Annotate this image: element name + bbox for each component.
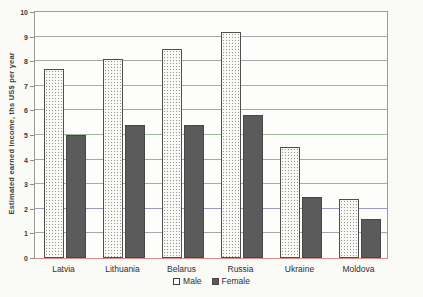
legend-label-male: Male (183, 276, 201, 286)
y-tick-label-7: 7 (6, 82, 28, 91)
y-tick-label-9: 9 (6, 33, 28, 42)
bar-female-ukraine (302, 197, 322, 259)
bar-male-latvia (44, 69, 64, 258)
bar-male-belarus (162, 49, 182, 258)
x-axis-label-moldova: Moldova (329, 264, 388, 274)
bar-male-lithuania (103, 59, 123, 258)
gridline-6 (35, 109, 387, 110)
legend: Male Female (0, 276, 423, 286)
female-swatch-icon (212, 278, 219, 285)
bar-female-moldova (361, 219, 381, 258)
y-tick-mark-8 (30, 61, 34, 62)
gridline-4 (35, 159, 387, 160)
bar-male-russia (221, 32, 241, 258)
y-tick-mark-7 (30, 86, 34, 87)
y-tick-label-3: 3 (6, 180, 28, 189)
x-axis-label-latvia: Latvia (34, 264, 93, 274)
y-tick-label-8: 8 (6, 57, 28, 66)
gridline-9 (35, 36, 387, 37)
y-tick-label-1: 1 (6, 229, 28, 238)
bar-male-moldova (339, 199, 359, 258)
y-tick-mark-0 (30, 258, 34, 259)
gridline-2 (35, 208, 387, 209)
y-tick-mark-9 (30, 37, 34, 38)
bar-female-latvia (66, 135, 86, 258)
legend-label-female: Female (222, 276, 250, 286)
gridline-8 (35, 60, 387, 61)
legend-item-male: Male (173, 276, 201, 286)
male-swatch-icon (173, 278, 180, 285)
y-tick-mark-2 (30, 209, 34, 210)
y-tick-label-4: 4 (6, 156, 28, 165)
plot-area (34, 11, 388, 259)
y-tick-label-6: 6 (6, 106, 28, 115)
y-tick-label-2: 2 (6, 205, 28, 214)
y-tick-label-0: 0 (6, 254, 28, 263)
bar-female-lithuania (125, 125, 145, 258)
y-tick-mark-3 (30, 184, 34, 185)
bar-female-belarus (184, 125, 204, 258)
y-tick-mark-6 (30, 110, 34, 111)
x-axis-label-lithuania: Lithuania (93, 264, 152, 274)
y-tick-mark-1 (30, 233, 34, 234)
y-tick-mark-10 (30, 12, 34, 13)
gridline-7 (35, 85, 387, 86)
x-axis-label-russia: Russia (211, 264, 270, 274)
x-axis-label-belarus: Belarus (152, 264, 211, 274)
gridline-5 (35, 134, 387, 135)
y-tick-mark-5 (30, 135, 34, 136)
y-tick-label-10: 10 (6, 8, 28, 17)
gridline-1 (35, 232, 387, 233)
legend-item-female: Female (212, 276, 250, 286)
y-tick-mark-4 (30, 160, 34, 161)
bar-male-ukraine (280, 147, 300, 258)
gridline-3 (35, 183, 387, 184)
bar-female-russia (243, 115, 263, 258)
x-axis-label-ukraine: Ukraine (270, 264, 329, 274)
y-tick-label-5: 5 (6, 131, 28, 140)
bar-chart: Estimated earned income, ths US$ per yea… (0, 0, 423, 297)
